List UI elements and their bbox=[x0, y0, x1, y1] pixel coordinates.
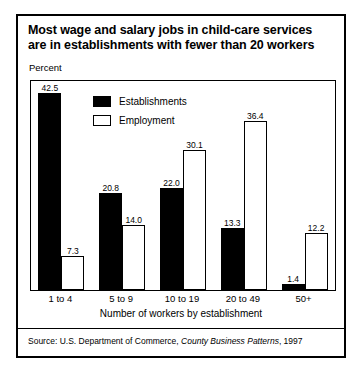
chart-legend: Establishments Employment bbox=[93, 93, 187, 131]
x-axis-tick-label: 20 to 49 bbox=[226, 293, 260, 304]
bar-establishments: 42.5 bbox=[38, 93, 61, 290]
bar-group: 1.412.2 bbox=[282, 81, 328, 290]
bar-employment: 14.0 bbox=[122, 225, 145, 290]
bar-value-label: 13.3 bbox=[224, 219, 241, 228]
source-suffix: , 1997 bbox=[279, 336, 303, 346]
bar-group: 13.336.4 bbox=[221, 81, 267, 290]
x-axis-tick-labels: 1 to 45 to 910 to 1920 to 4950+ bbox=[30, 293, 336, 307]
plot-frame: 42.57.320.814.022.030.113.336.41.412.2 E… bbox=[30, 80, 336, 291]
x-axis-tick-label: 10 to 19 bbox=[165, 293, 199, 304]
bar-establishments: 13.3 bbox=[221, 228, 244, 290]
chart-figure: Most wage and salary jobs in child-care … bbox=[16, 14, 346, 358]
bar-employment: 7.3 bbox=[61, 256, 84, 290]
chart-title-line-2: are in establishments with fewer than 20… bbox=[28, 38, 338, 53]
legend-item-employment: Employment bbox=[93, 112, 187, 129]
bar-employment: 12.2 bbox=[305, 233, 328, 290]
bar-value-label: 14.0 bbox=[125, 216, 142, 225]
bar-employment: 30.1 bbox=[183, 150, 206, 290]
chart-title-line-1: Most wage and salary jobs in child-care … bbox=[28, 23, 338, 38]
bar-value-label: 12.2 bbox=[308, 224, 325, 233]
bar-value-label: 30.1 bbox=[186, 141, 203, 150]
bar-value-label: 7.3 bbox=[67, 247, 79, 256]
source-note: Source: U.S. Department of Commerce, Cou… bbox=[28, 336, 303, 346]
bar-establishments: 1.4 bbox=[282, 284, 305, 291]
bar-value-label: 36.4 bbox=[247, 112, 264, 121]
bar-value-label: 42.5 bbox=[42, 84, 59, 93]
legend-swatch-employment-icon bbox=[93, 115, 111, 126]
legend-label-establishments: Establishments bbox=[119, 96, 187, 107]
x-axis-tick-label: 5 to 9 bbox=[109, 293, 133, 304]
source-divider bbox=[18, 328, 344, 329]
source-publication: County Business Patterns bbox=[181, 336, 279, 346]
bar-value-label: 1.4 bbox=[287, 275, 299, 284]
bar-value-label: 22.0 bbox=[163, 179, 180, 188]
legend-item-establishments: Establishments bbox=[93, 93, 187, 110]
x-axis-tick-label: 1 to 4 bbox=[49, 293, 73, 304]
source-prefix: Source: U.S. Department of Commerce, bbox=[28, 336, 179, 346]
x-axis-title: Number of workers by establishment bbox=[18, 308, 344, 319]
bar-establishments: 22.0 bbox=[160, 188, 183, 290]
legend-swatch-establishments-icon bbox=[93, 96, 111, 107]
bar-employment: 36.4 bbox=[244, 121, 267, 290]
bar-establishments: 20.8 bbox=[99, 193, 122, 290]
y-axis-label: Percent bbox=[29, 62, 62, 73]
legend-label-employment: Employment bbox=[119, 115, 175, 126]
bar-group: 42.57.3 bbox=[38, 81, 84, 290]
bar-value-label: 20.8 bbox=[102, 184, 119, 193]
x-axis-tick-label: 50+ bbox=[296, 293, 312, 304]
chart-title: Most wage and salary jobs in child-care … bbox=[28, 23, 338, 53]
